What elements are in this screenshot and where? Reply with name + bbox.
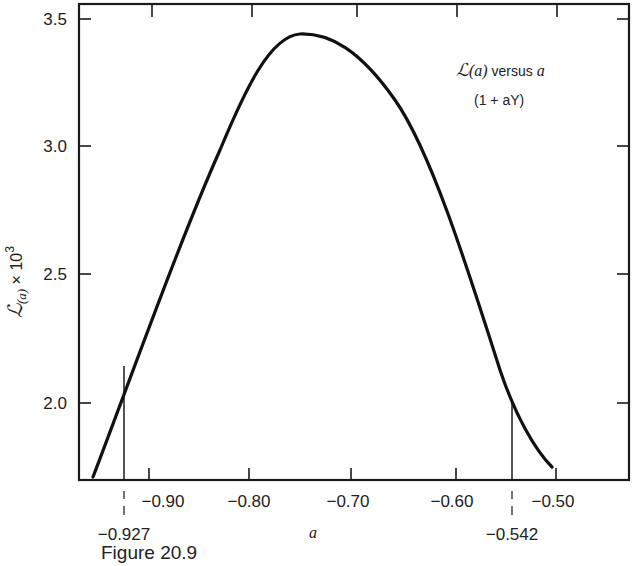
y-ticks-left xyxy=(79,19,91,403)
y-ticks-right xyxy=(617,19,629,403)
marker-label-right: −0.542 xyxy=(486,525,538,544)
legend-line-2: (1 + aY) xyxy=(474,92,524,108)
y-axis-label: ℒ(a) × 103 xyxy=(3,246,29,318)
y-tick-label-3-5: 3.5 xyxy=(43,10,67,29)
x-tick-label-0-80: −0.80 xyxy=(227,492,270,511)
x-tick-label-0-90: −0.90 xyxy=(141,492,184,511)
x-tick-label-0-60: −0.60 xyxy=(430,492,473,511)
plot-frame xyxy=(79,4,629,480)
y-tick-label-2-0: 2.0 xyxy=(43,394,67,413)
script-l-glyph: ℒ xyxy=(4,303,26,318)
y-tick-label-3-0: 3.0 xyxy=(43,137,67,156)
x-tick-label-0-70: −0.70 xyxy=(326,492,369,511)
y-tick-label-2-5: 2.5 xyxy=(43,265,67,284)
likelihood-chart: 3.5 3.0 2.5 2.0 −0.90 −0.80 −0.70 −0.60 … xyxy=(0,0,635,566)
x-ticks-bottom xyxy=(149,468,556,480)
x-tick-label-0-50: −0.50 xyxy=(531,492,574,511)
x-ticks-top xyxy=(152,4,557,17)
legend-line-1: ℒ(a) versus a xyxy=(456,60,545,80)
x-axis-label: a xyxy=(309,524,317,541)
figure-caption: Figure 20.9 xyxy=(101,542,197,564)
